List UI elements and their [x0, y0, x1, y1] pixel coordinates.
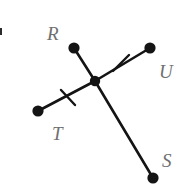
point-label-U: U [159, 61, 174, 82]
geometry-figure-container: R U T S [0, 0, 183, 190]
point-label-S: S [162, 150, 172, 171]
point-dot-center [90, 76, 100, 86]
point-dot-R [68, 42, 79, 53]
point-label-T: T [52, 123, 64, 144]
geometry-diagram: R U T S [0, 0, 183, 190]
figure-background [0, 0, 183, 190]
point-dot-T [32, 105, 43, 116]
point-dot-S [147, 172, 158, 183]
point-dot-U [144, 42, 155, 53]
left-edge-scan-artifact [0, 28, 2, 35]
point-label-R: R [46, 23, 59, 44]
